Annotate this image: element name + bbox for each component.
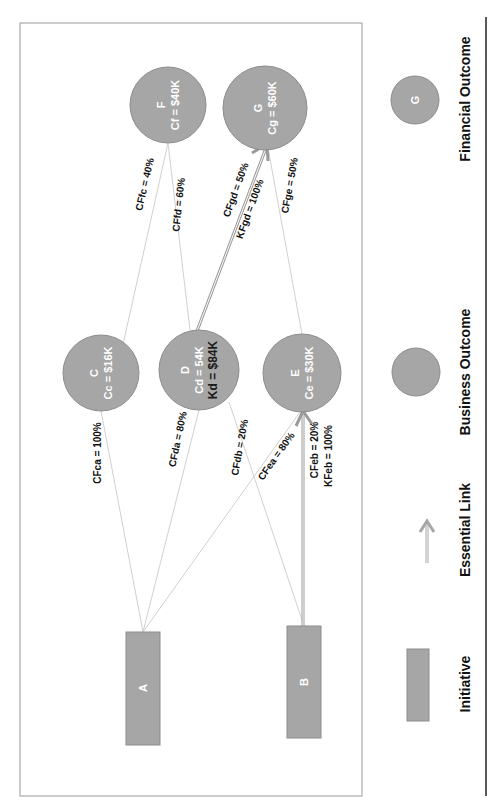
node-d-cost: Cd = 54K <box>193 346 205 393</box>
edge-f-d <box>168 143 190 330</box>
legend-financial-outcome: G Financial Outcome <box>391 36 473 161</box>
node-c[interactable]: C Cc = $16K <box>63 335 139 411</box>
edge-label-cfeb: CFeb = 20% <box>309 422 320 479</box>
essential-link-d-g <box>197 144 268 331</box>
legend-financial-label: Financial Outcome <box>457 36 473 161</box>
node-b-id: B <box>298 678 310 686</box>
edge-label-cffc: CFfc = 40% <box>133 157 156 212</box>
edge-label-kfeb: KFeb = 100% <box>323 425 334 487</box>
legend: G Financial Outcome Business Outcome Ess… <box>391 36 473 721</box>
edge-c-a <box>101 411 143 632</box>
node-e-id: E <box>289 369 301 376</box>
impact-diagram: F Cf = $40K G Cg = $60K C Cc = $16K D Cd… <box>0 0 495 808</box>
legend-business-label: Business Outcome <box>457 308 473 435</box>
legend-business-outcome: Business Outcome <box>392 308 473 435</box>
node-e-cost: Ce = $30K <box>303 347 315 400</box>
node-f-id: F <box>155 101 167 108</box>
legend-initiative: Initiative <box>407 649 473 721</box>
business-outcome-symbol-icon <box>392 348 440 396</box>
node-e[interactable]: E Ce = $30K <box>263 334 341 412</box>
edge-label-cfea: CFea = 80% <box>256 430 297 482</box>
edge-label-cfge: CFge = 50% <box>279 157 300 215</box>
legend-essential-label: Essential Link <box>457 483 473 577</box>
legend-essential-link: Essential Link <box>420 483 473 577</box>
node-d[interactable]: D Cd = 54K Kd = $84K <box>159 330 239 410</box>
edge-label-cfda: CFda = 80% <box>166 410 189 468</box>
node-g[interactable]: G Cg = $60K <box>223 66 307 150</box>
node-g-cost: Cg = $60K <box>266 81 278 135</box>
edge-label-cfca: CFca = 100% <box>92 422 103 484</box>
node-f[interactable]: F Cf = $40K <box>130 67 206 143</box>
node-d-id: D <box>179 366 191 374</box>
initiative-symbol-icon <box>407 649 429 721</box>
essential-link-arrow-icon <box>420 521 434 563</box>
edge-label-cfdb: CFdb = 20% <box>229 418 250 476</box>
legend-financial-symbol-text: G <box>409 96 421 105</box>
node-g-id: G <box>252 104 264 113</box>
node-a-id: A <box>137 684 149 692</box>
node-b[interactable]: B <box>287 626 321 738</box>
node-f-cost: Cf = $40K <box>169 80 181 130</box>
legend-initiative-label: Initiative <box>457 655 473 712</box>
node-d-k: Kd = $84K <box>206 340 220 399</box>
node-c-id: C <box>88 369 100 377</box>
node-c-cost: Cc = $16K <box>102 347 114 400</box>
node-a[interactable]: A <box>126 632 160 745</box>
